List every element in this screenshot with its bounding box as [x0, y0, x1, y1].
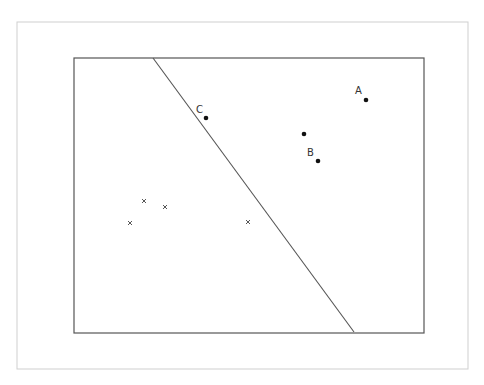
label-b: B: [307, 147, 314, 158]
diagram-canvas: A C B: [0, 0, 484, 385]
label-a: A: [355, 85, 362, 96]
point-c: [204, 116, 209, 121]
plot-area: [74, 58, 424, 333]
point-a: [364, 98, 369, 103]
point-b: [316, 159, 321, 164]
point-unlabeled: [302, 132, 307, 137]
label-c: C: [196, 104, 203, 115]
